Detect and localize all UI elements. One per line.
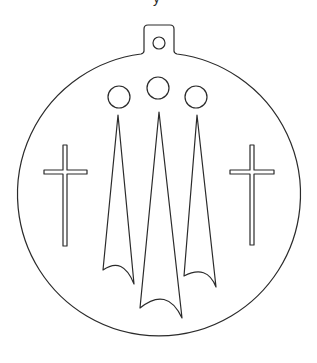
cross-left <box>44 145 87 246</box>
hanger-hole <box>153 37 165 49</box>
flame-right <box>184 115 216 287</box>
flame-left <box>103 115 134 284</box>
flame-middle <box>140 112 182 318</box>
cross-right <box>230 145 274 245</box>
circle-middle <box>147 77 169 99</box>
ornament-outline <box>18 25 301 336</box>
circle-right <box>185 86 207 108</box>
circle-left <box>108 86 130 108</box>
cropped-title-fragment: y <box>153 0 160 6</box>
